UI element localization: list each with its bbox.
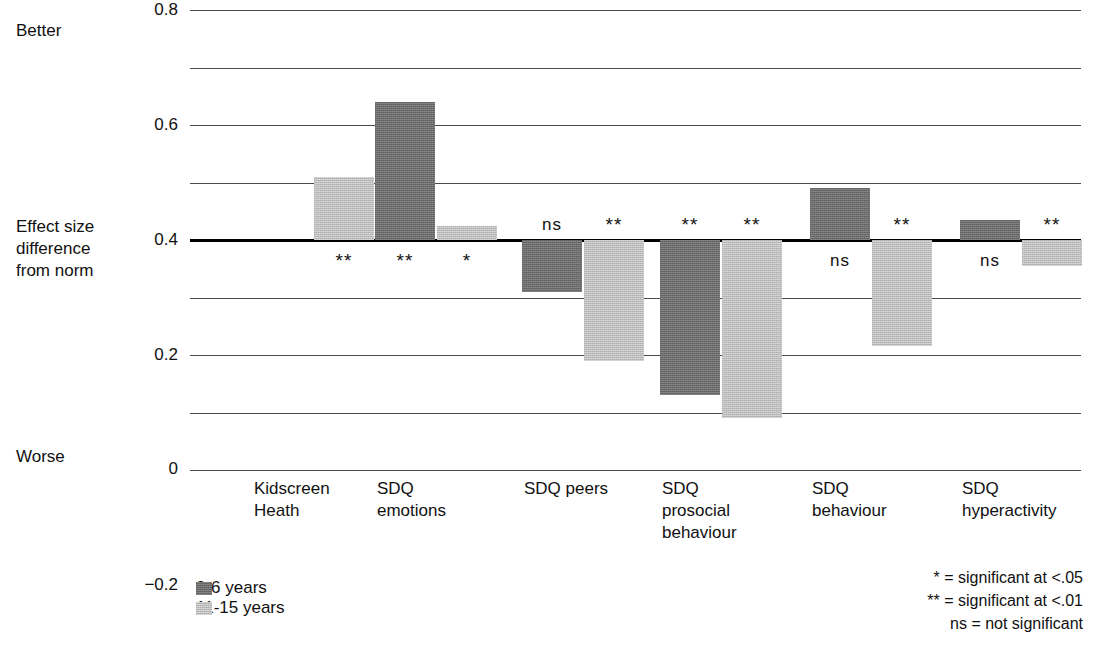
y-tick-label: 0.6 bbox=[154, 115, 178, 135]
y-axis-title-line-2: difference bbox=[16, 238, 94, 260]
significance-marker: ** bbox=[397, 252, 414, 269]
y-tick-label: 0.2 bbox=[154, 345, 178, 365]
y-axis-title-line-3: from norm bbox=[16, 260, 94, 282]
significance-marker: ** bbox=[1044, 216, 1061, 233]
bar bbox=[810, 188, 870, 240]
better-label: Better bbox=[16, 20, 61, 41]
significance-marker: ** bbox=[336, 252, 353, 269]
significance-key-line-2: ** = significant at <.01 bbox=[927, 589, 1083, 612]
bar bbox=[872, 240, 932, 346]
gridline: −0.8 bbox=[190, 470, 1081, 471]
bar bbox=[960, 220, 1020, 240]
bar bbox=[314, 177, 374, 240]
plot-area: 0.80.60.40.20−0.2−0.4−0.6−0.8*****ns****… bbox=[190, 10, 1081, 470]
x-axis-category-label: SDQ hyperactivity bbox=[962, 478, 1056, 522]
y-tick-label: 0.4 bbox=[154, 230, 178, 250]
gridline: 0.4 bbox=[190, 125, 1081, 126]
significance-marker: ** bbox=[682, 216, 699, 233]
significance-key: * = significant at <.05 ** = significant… bbox=[927, 566, 1083, 635]
significance-marker: * bbox=[463, 252, 471, 269]
y-tick-label: 0 bbox=[169, 459, 178, 479]
y-axis-title: Effect size difference from norm bbox=[16, 216, 94, 282]
bar bbox=[1022, 240, 1082, 266]
legend-item-11-15-years: 11-15 years bbox=[196, 598, 285, 618]
legend-item-3-6-years: 3-6 years bbox=[196, 578, 285, 598]
gridline: 0.6 bbox=[190, 68, 1081, 69]
bar bbox=[522, 240, 582, 292]
gridline: −0.6 bbox=[190, 413, 1081, 414]
significance-marker: ns bbox=[542, 216, 562, 233]
x-axis-category-label: SDQ prosocial behaviour bbox=[662, 478, 737, 544]
significance-marker: ns bbox=[980, 252, 1000, 269]
significance-marker: ** bbox=[894, 216, 911, 233]
significance-marker: ** bbox=[606, 216, 623, 233]
legend-swatch-light bbox=[196, 602, 212, 615]
bar bbox=[722, 240, 782, 418]
bar bbox=[437, 226, 497, 240]
significance-marker: ns bbox=[830, 252, 850, 269]
bar bbox=[375, 102, 435, 240]
worse-label: Worse bbox=[16, 446, 65, 467]
legend-swatch-dark bbox=[196, 582, 212, 595]
bar bbox=[584, 240, 644, 361]
legend: 3-6 years 11-15 years bbox=[196, 578, 285, 618]
y-axis-title-line-1: Effect size bbox=[16, 216, 94, 238]
significance-key-line-3: ns = not significant bbox=[927, 612, 1083, 635]
gridline: 0.8 bbox=[190, 10, 1081, 11]
chart-page: Better Worse Effect size difference from… bbox=[0, 0, 1101, 648]
x-axis-category-label: SDQ peers bbox=[524, 478, 608, 500]
significance-key-line-1: * = significant at <.05 bbox=[927, 566, 1083, 589]
x-axis-category-label: Kidscreen Heath bbox=[254, 478, 330, 522]
significance-marker: ** bbox=[744, 216, 761, 233]
x-axis-category-label: SDQ behaviour bbox=[812, 478, 887, 522]
bar bbox=[660, 240, 720, 395]
y-tick-label: −0.2 bbox=[144, 575, 178, 595]
y-tick-label: 0.8 bbox=[154, 0, 178, 20]
x-axis-category-label: SDQ emotions bbox=[377, 478, 446, 522]
